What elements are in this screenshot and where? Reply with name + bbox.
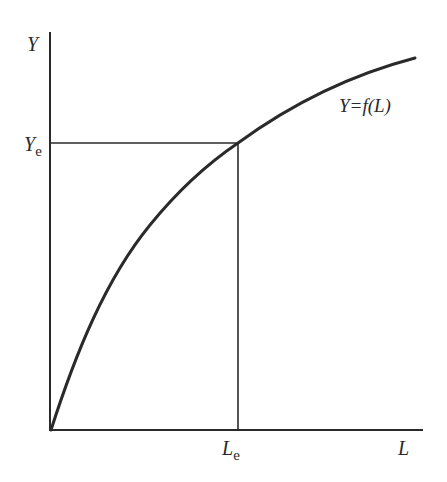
curve-label: Y=f(L) [339, 95, 391, 117]
y-axis-label: Y [27, 33, 40, 55]
ye-label: Ye [24, 133, 42, 159]
production-function-diagram: Y Ye Le L Y=f(L) [0, 0, 447, 482]
x-axis-label: L [397, 437, 409, 459]
le-label: Le [221, 437, 240, 463]
